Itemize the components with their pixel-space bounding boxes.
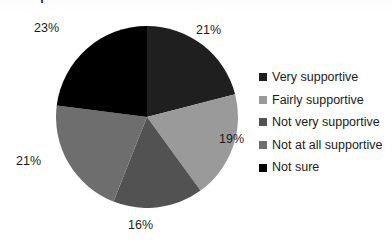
legend-item: Very supportive: [259, 66, 392, 89]
data-label-fairly-supportive: 19%: [219, 133, 244, 146]
legend-swatch-icon: [259, 164, 267, 172]
legend-item: Not very supportive: [259, 111, 392, 134]
pie-graphic: [56, 26, 238, 208]
pie-chart-figure: Perceptions of Sharia Law and Britishnes…: [0, 0, 392, 250]
data-label-not-very-supportive: 16%: [128, 219, 153, 232]
pie-slice: [57, 26, 147, 117]
legend-item: Not at all supportive: [259, 134, 392, 157]
legend-item: Fairly supportive: [259, 89, 392, 112]
legend-item-label: Not sure: [272, 161, 319, 174]
data-label-very-supportive: 21%: [196, 24, 221, 37]
data-label-not-at-all-supportive: 21%: [16, 155, 41, 168]
legend-item-label: Fairly supportive: [272, 94, 364, 107]
pie-slices: [56, 26, 238, 208]
legend-item: Not sure: [259, 156, 392, 179]
legend-swatch-icon: [259, 73, 267, 81]
legend-swatch-icon: [259, 96, 267, 104]
legend-item-label: Very supportive: [272, 71, 358, 84]
data-label-not-sure: 23%: [34, 22, 59, 35]
legend-swatch-icon: [259, 118, 267, 126]
legend-item-label: Not very supportive: [272, 116, 380, 129]
legend-swatch-icon: [259, 141, 267, 149]
chart-legend: Very supportiveFairly supportiveNot very…: [259, 66, 392, 179]
legend-item-label: Not at all supportive: [272, 139, 382, 152]
plot-area: 21% 19% 16% 21% 23%: [0, 0, 248, 250]
